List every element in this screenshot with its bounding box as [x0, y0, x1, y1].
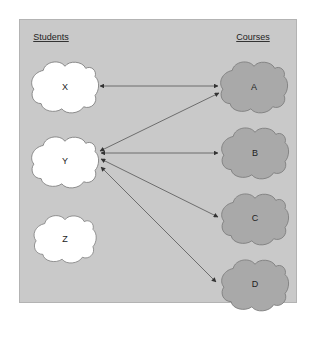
student-label: Z	[62, 234, 68, 244]
edge-y-d	[101, 167, 216, 282]
course-node-d: D	[222, 260, 289, 311]
student-label: Y	[62, 156, 68, 166]
student-label: X	[62, 82, 68, 92]
courses-heading: Courses	[236, 32, 270, 42]
course-label: B	[252, 148, 258, 158]
student-node-y: Y	[32, 137, 99, 188]
course-node-c: C	[222, 194, 289, 245]
course-node-b: B	[222, 128, 289, 179]
edge-y-c	[101, 159, 218, 217]
edges	[100, 86, 219, 282]
edge-y-a	[100, 93, 219, 151]
student-node-z: Z	[34, 216, 96, 263]
course-node-a: A	[221, 62, 288, 113]
student-node-x: X	[32, 62, 99, 113]
course-label: D	[252, 279, 259, 289]
students-heading: Students	[33, 32, 69, 42]
student-course-diagram: Students Courses X Y Z A B C D	[0, 0, 314, 339]
course-label: C	[252, 213, 259, 223]
course-label: A	[251, 82, 257, 92]
